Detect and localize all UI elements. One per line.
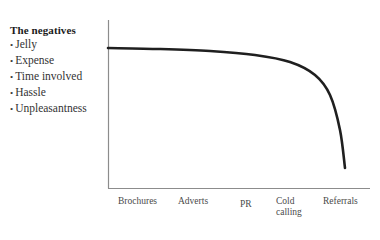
x-tick-label-brochures-line1: Brochures (118, 196, 157, 206)
x-tick-label-cold-calling-line1: Cold (276, 196, 294, 206)
x-tick-label-referrals: Referrals (323, 196, 358, 207)
annotation-heading: The negatives (10, 24, 102, 37)
bullet-icon: • (10, 54, 13, 69)
list-item: • Jelly (10, 37, 102, 53)
list-item: • Expense (10, 53, 102, 69)
bullet-icon: • (10, 86, 13, 101)
x-tick-label-adverts: Adverts (178, 196, 208, 207)
list-item: • Unpleasantness (10, 101, 102, 117)
x-tick-label-cold-calling: Cold calling (276, 196, 302, 218)
bullet-icon: • (10, 38, 13, 53)
list-item: • Time involved (10, 69, 102, 85)
list-item-label: Time involved (15, 69, 82, 84)
x-tick-label-referrals-line1: Referrals (323, 196, 358, 206)
x-tick-label-adverts-line1: Adverts (178, 196, 208, 206)
x-tick-label-cold-calling-line2: calling (276, 207, 302, 218)
x-tick-label-pr: PR (240, 199, 252, 210)
list-item-label: Expense (15, 53, 54, 68)
annotation-list: The negatives • Jelly • Expense • Time i… (10, 24, 102, 117)
bullet-icon: • (10, 102, 13, 117)
list-item-label: Hassle (15, 85, 46, 100)
list-item-label: Jelly (15, 37, 37, 52)
bullet-icon: • (10, 70, 13, 85)
list-item-label: Unpleasantness (15, 101, 87, 116)
list-item: • Hassle (10, 85, 102, 101)
x-tick-label-brochures: Brochures (118, 196, 157, 207)
x-tick-label-pr-line1: PR (240, 199, 252, 209)
decay-curve-line (108, 48, 345, 168)
